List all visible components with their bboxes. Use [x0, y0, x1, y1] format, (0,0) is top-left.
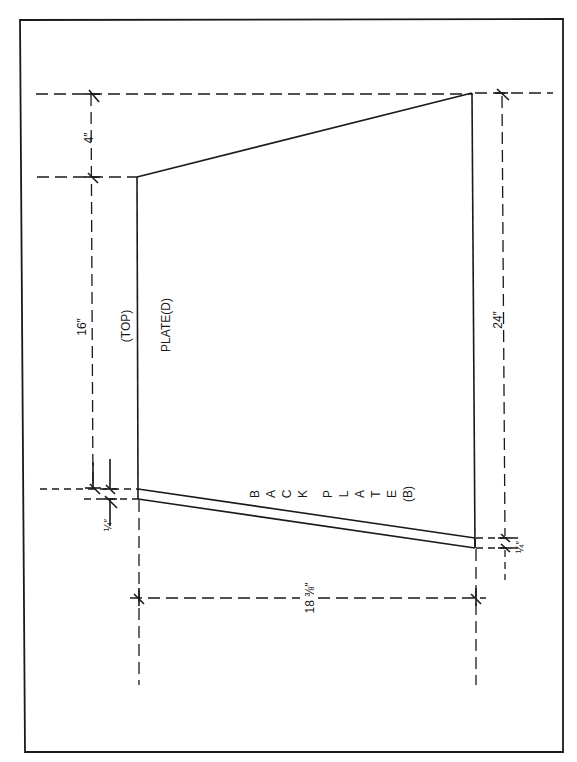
dim-label-24in: 24″ [491, 310, 505, 328]
extension-lines-right [475, 93, 553, 548]
back-plate-letter: P [321, 490, 335, 498]
dimension-line-left [84, 90, 101, 494]
dim-label-16in: 16″ [75, 317, 89, 335]
dimension-line-left-small [103, 459, 117, 526]
back-plate-letter: E [385, 490, 399, 498]
technical-drawing: 4″ 16″ ¼″ (TOP) PLATE(D) 24″ ¼″ 18 ⅜″ B … [0, 0, 577, 762]
back-plate-letter: K [296, 490, 310, 498]
back-plate-letter: (B) [401, 486, 415, 502]
dimension-line-right [495, 89, 512, 580]
back-plate-letter: L [337, 490, 351, 497]
back-plate-letter: B [248, 490, 262, 498]
dim-label-18-3-8in: 18 ⅜″ [303, 582, 317, 614]
frame-border [20, 19, 563, 752]
label-back-plate-b: B A C K P L A T E (B) [248, 486, 415, 502]
plate-d-outline [137, 93, 475, 548]
back-plate-letter: C [280, 489, 294, 498]
extension-lines-left [36, 94, 472, 499]
back-plate-letter: T [369, 490, 383, 498]
dim-label-quarter-left: ¼″ [103, 519, 114, 531]
back-plate-letter: A [353, 490, 367, 498]
label-top: (TOP) [119, 310, 133, 342]
dim-label-quarter-right: ¼″ [515, 541, 526, 553]
back-plate-letter: A [264, 490, 278, 498]
label-plate-d: PLATE(D) [159, 298, 173, 352]
dim-label-4in: 4″ [82, 132, 96, 144]
